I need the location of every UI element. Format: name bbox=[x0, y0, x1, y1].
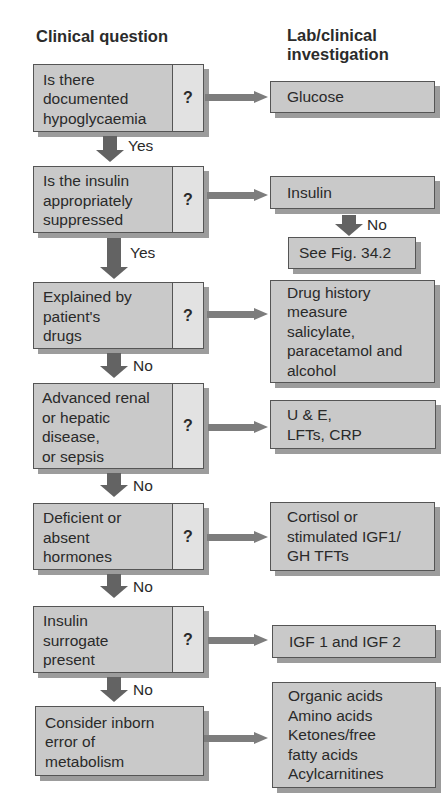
line: disease, bbox=[42, 427, 150, 447]
flow-label-yes: Yes bbox=[128, 137, 153, 155]
header-lab-investigation: Lab/clinical investigation bbox=[287, 26, 389, 64]
line: metabolism bbox=[45, 752, 154, 772]
arrow-right-icon bbox=[205, 91, 268, 103]
arrow-right-icon bbox=[207, 308, 268, 320]
line: drugs bbox=[43, 326, 132, 346]
arrow-down-icon bbox=[100, 574, 128, 598]
line: IGF 1 and IGF 2 bbox=[289, 632, 401, 652]
question-mark-cell: ? bbox=[172, 384, 203, 468]
arrow-right-icon bbox=[207, 531, 268, 543]
header-clinical-question: Clinical question bbox=[36, 27, 168, 46]
investigation-box-insulin: Insulin bbox=[270, 176, 435, 209]
question-box-drugs: Explained by patient's drugs ? bbox=[33, 282, 204, 349]
line: Drug history bbox=[287, 283, 402, 303]
line: suppressed bbox=[43, 210, 133, 230]
line: Consider inborn bbox=[45, 713, 154, 733]
line: GH TFTs bbox=[287, 546, 401, 566]
line: Insulin bbox=[287, 183, 332, 203]
investigation-box-metabolic: Organic acids Amino acids Ketones/free f… bbox=[272, 682, 436, 788]
line: Explained by bbox=[43, 287, 132, 307]
question-text: Consider inborn error of metabolism bbox=[36, 707, 203, 775]
line: or sepsis bbox=[42, 447, 150, 467]
line: measure bbox=[287, 302, 402, 322]
question-mark-cell: ? bbox=[172, 167, 203, 232]
line: error of bbox=[45, 732, 154, 752]
line: Acylcarnitines bbox=[288, 764, 384, 784]
arrow-down-icon bbox=[100, 353, 128, 378]
flow-label-no: No bbox=[133, 681, 153, 699]
investigation-box-cortisol: Cortisol or stimulated IGF1/ GH TFTs bbox=[270, 502, 435, 571]
line: present bbox=[43, 650, 108, 670]
line: Cortisol or bbox=[287, 507, 401, 527]
line: Is the insulin bbox=[43, 171, 133, 191]
question-text: Explained by patient's drugs bbox=[34, 283, 172, 348]
arrow-right-icon bbox=[207, 189, 268, 201]
question-box-hormones: Deficient or absent hormones ? bbox=[33, 503, 204, 570]
line: fatty acids bbox=[288, 745, 384, 765]
line: See Fig. 34.2 bbox=[299, 243, 391, 263]
line: Glucose bbox=[287, 87, 344, 107]
arrow-down-icon bbox=[100, 473, 128, 497]
flow-label-yes: Yes bbox=[130, 244, 155, 262]
arrow-down-icon bbox=[100, 238, 128, 279]
line: Insulin bbox=[43, 611, 108, 631]
line: stimulated IGF1/ bbox=[287, 527, 401, 547]
line: patient's bbox=[43, 307, 132, 327]
flow-label-no: No bbox=[367, 216, 387, 234]
flow-label-no: No bbox=[133, 578, 153, 596]
investigation-box-drug-history: Drug history measure salicylate, paracet… bbox=[270, 280, 435, 383]
line: Deficient or bbox=[43, 508, 121, 528]
line: appropriately bbox=[43, 191, 133, 211]
line: U & E, bbox=[287, 405, 362, 425]
line: alcohol bbox=[287, 361, 402, 381]
line: Ketones/free bbox=[288, 725, 384, 745]
arrow-down-icon bbox=[100, 677, 128, 702]
arrow-down-icon bbox=[335, 215, 363, 236]
question-mark-cell: ? bbox=[172, 65, 203, 131]
question-mark-cell: ? bbox=[172, 504, 203, 569]
arrow-down-icon bbox=[96, 136, 124, 162]
line: surrogate bbox=[43, 631, 108, 651]
line: salicylate, bbox=[287, 322, 402, 342]
investigation-box-glucose: Glucose bbox=[270, 81, 435, 113]
question-text: Advanced renal or hepatic disease, or se… bbox=[34, 384, 172, 468]
line: Advanced renal bbox=[42, 388, 150, 408]
question-text: Deficient or absent hormones bbox=[34, 504, 172, 569]
line: Is there bbox=[43, 70, 146, 90]
question-text: Is the insulin appropriately suppressed bbox=[34, 167, 172, 232]
investigation-box-igf: IGF 1 and IGF 2 bbox=[272, 625, 436, 658]
question-box-insulin-surrogate: Insulin surrogate present ? bbox=[33, 606, 204, 673]
question-mark-cell: ? bbox=[172, 283, 203, 348]
line: or hepatic bbox=[42, 408, 150, 428]
question-box-hypoglycaemia: Is there documented hypoglycaemia ? bbox=[33, 64, 204, 132]
line: Organic acids bbox=[288, 686, 384, 706]
line: absent bbox=[43, 528, 121, 548]
line: hypoglycaemia bbox=[43, 109, 146, 129]
question-box-renal-hepatic-sepsis: Advanced renal or hepatic disease, or se… bbox=[33, 383, 204, 469]
header-lab-line2: investigation bbox=[287, 45, 389, 64]
arrow-right-icon bbox=[208, 634, 268, 646]
question-box-inborn-error: Consider inborn error of metabolism bbox=[35, 706, 204, 776]
question-text: Is there documented hypoglycaemia bbox=[34, 65, 172, 131]
line: Amino acids bbox=[288, 706, 384, 726]
line: LFTs, CRP bbox=[287, 425, 362, 445]
question-box-insulin-suppressed: Is the insulin appropriately suppressed … bbox=[33, 166, 204, 233]
flow-label-no: No bbox=[133, 477, 153, 495]
line: documented bbox=[43, 89, 146, 109]
line: paracetamol and bbox=[287, 341, 402, 361]
see-figure-box: See Fig. 34.2 bbox=[288, 237, 416, 269]
line: hormones bbox=[43, 547, 121, 567]
question-mark-cell: ? bbox=[172, 607, 203, 672]
arrow-right-icon bbox=[204, 732, 268, 744]
flow-label-no: No bbox=[133, 357, 153, 375]
investigation-box-ue-lfts-crp: U & E, LFTs, CRP bbox=[270, 400, 436, 449]
header-lab-line1: Lab/clinical bbox=[287, 26, 389, 45]
arrow-right-icon bbox=[208, 421, 268, 433]
question-text: Insulin surrogate present bbox=[34, 607, 172, 672]
